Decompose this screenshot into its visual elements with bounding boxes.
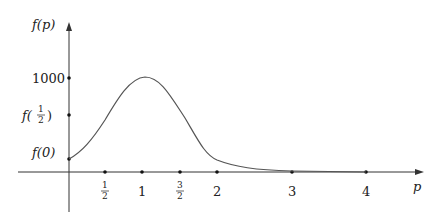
diagram-canvas: f(p) 1000 f( 1 2 ) f(0) 1 2 1 3 2 2 3 4 … (0, 0, 442, 216)
svg-text:1: 1 (102, 180, 108, 190)
y-tick-label-f-half: f( 1 2 ) (21, 104, 52, 125)
svg-text:): ) (47, 108, 52, 123)
x-axis-arrow-icon (415, 169, 424, 175)
x-tick-label-1: 1 (138, 184, 146, 199)
svg-text:2: 2 (38, 115, 44, 125)
x-tick-label-three-halves: 3 2 (176, 180, 184, 201)
svg-text:f(: f( (21, 108, 33, 123)
x-tick-label-3: 3 (288, 184, 296, 199)
function-curve (69, 77, 366, 172)
svg-text:2: 2 (102, 191, 108, 201)
x-tick-label-4: 4 (362, 184, 370, 199)
x-tick-label-2: 2 (213, 184, 221, 199)
x-tick-label-half: 1 2 (101, 180, 109, 201)
svg-text:1: 1 (38, 104, 44, 114)
svg-text:3: 3 (177, 180, 183, 190)
svg-text:2: 2 (177, 191, 183, 201)
y-tick-label-1000: 1000 (32, 71, 65, 86)
y-tick-label-f0: f(0) (31, 145, 55, 160)
y-axis-label: f(p) (31, 17, 55, 32)
y-axis-arrow-icon (66, 22, 72, 31)
x-axis-label: p (413, 179, 422, 194)
